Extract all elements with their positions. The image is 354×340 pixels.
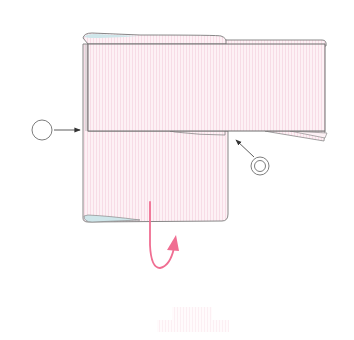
- vertical-ribbon-back-curl: [83, 33, 227, 44]
- ghost-preview-block: [157, 307, 229, 332]
- horizontal-ribbon: [88, 44, 325, 131]
- double-circle-icon: [251, 157, 269, 175]
- folding-diagram: [0, 0, 354, 340]
- callout-marker-2: [236, 140, 269, 175]
- callout-marker-1: [32, 120, 80, 140]
- single-circle-icon: [32, 120, 52, 140]
- diagram-canvas: [0, 0, 354, 340]
- pointer-arrow-icon: [236, 140, 254, 157]
